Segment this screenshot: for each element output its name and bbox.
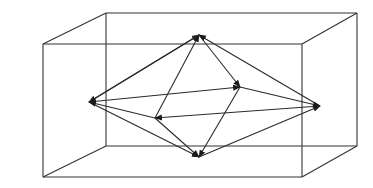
- octahedron-edges: [89, 35, 320, 157]
- directed-edge-inner-left-to-top: [155, 35, 199, 118]
- octahedron-in-box-diagram: [0, 0, 373, 188]
- box-depth-edge-bl: [43, 146, 106, 177]
- directed-edge-top-to-inner-right: [199, 35, 240, 87]
- bounding-box: [43, 13, 357, 177]
- directed-edge-inner-left-to-bottom: [155, 118, 199, 157]
- box-depth-edge-tr: [302, 13, 357, 44]
- box-depth-edge-br: [302, 146, 357, 177]
- diagram-canvas: [0, 0, 373, 188]
- directed-edge-inner-right-to-right: [240, 87, 320, 106]
- directed-edge-inner-left-to-left: [89, 102, 155, 118]
- box-depth-edge-tl: [43, 13, 106, 44]
